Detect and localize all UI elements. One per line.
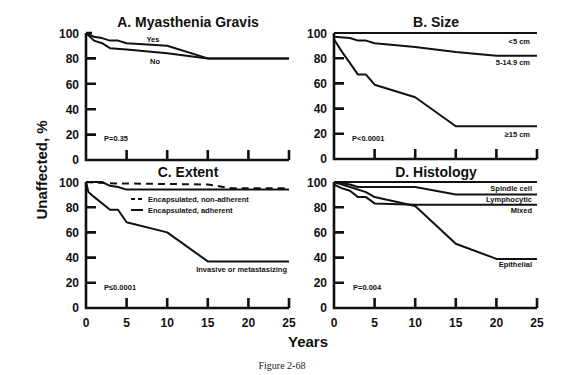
p-value-d: P=0.004 [353, 283, 382, 292]
panel-c-yticks [86, 207, 96, 283]
ytick-0: 0 [320, 301, 327, 315]
curve-ge15cm [334, 39, 537, 126]
ytick-40: 40 [314, 251, 328, 265]
legend-encapsulated-adherent: Encapsulated, adherent [148, 206, 233, 215]
p-value-a: P=0.35 [104, 134, 128, 143]
legend-encapsulated-non-adherent: Encapsulated, non-adherent [148, 195, 249, 204]
ytick-60: 60 [66, 78, 80, 92]
ytick-80: 80 [66, 52, 80, 66]
ytick-20: 20 [314, 276, 328, 290]
panel-c-title: C. Extent [158, 164, 219, 180]
panel-d: D. Histology 100 80 60 40 20 0 Spindle c… [307, 164, 544, 330]
ytick-0: 0 [72, 301, 79, 315]
xtick-25: 25 [282, 316, 296, 330]
label-spindle-cell: Spindle cell [490, 184, 532, 193]
panel-d-yticks [334, 207, 344, 283]
figure-canvas: A. Myasthenia Gravis 100 80 60 40 20 0 Y… [0, 0, 571, 375]
xtick-0: 0 [83, 316, 90, 330]
label-5-14.9cm: 5-14.9 cm [496, 58, 531, 67]
ytick-20: 20 [314, 127, 328, 141]
xtick-20: 20 [242, 316, 256, 330]
label-no: No [150, 57, 160, 66]
y-axis-label: Unaffected, % [33, 120, 50, 219]
ytick-80: 80 [314, 201, 328, 215]
label-ge15cm: ≥15 cm [505, 130, 531, 139]
p-value-b: P<0.0001 [352, 134, 384, 143]
panel-d-xticks [375, 298, 537, 308]
xtick-5: 5 [371, 316, 378, 330]
panel-a-xticks [127, 150, 289, 160]
panel-b-yticks [334, 58, 344, 134]
p-value-c: P≤0.0001 [104, 283, 136, 292]
label-mixed: Mixed [511, 206, 533, 215]
curve-5-14.9cm [334, 37, 537, 56]
curve-epithelial [334, 182, 537, 259]
panel-a: A. Myasthenia Gravis 100 80 60 40 20 0 Y… [59, 14, 289, 167]
ytick-20: 20 [66, 128, 80, 142]
label-lymphocytic: Lymphocytic [486, 195, 532, 204]
ytick-100: 100 [59, 27, 79, 41]
panel-a-title: A. Myasthenia Gravis [117, 14, 259, 30]
panel-b-xticks [375, 149, 537, 159]
label-invasive-or-metastasizing: Invasive or metastasizing [196, 265, 287, 274]
panel-a-yticks [86, 33, 96, 135]
label-epithelial: Epithelial [499, 260, 532, 269]
panel-c-xticks [127, 298, 289, 308]
ytick-100: 100 [307, 176, 327, 190]
curve-invasive-or-metastasizing [86, 182, 289, 261]
ytick-60: 60 [66, 226, 80, 240]
curve-no [86, 33, 289, 58]
label-yes: Yes [147, 35, 160, 44]
ytick-40: 40 [314, 102, 328, 116]
ytick-60: 60 [314, 226, 328, 240]
xtick-0: 0 [331, 316, 338, 330]
ytick-100: 100 [59, 176, 79, 190]
ytick-20: 20 [66, 276, 80, 290]
panel-b-title: B. Size [413, 14, 459, 30]
label-lt5cm: <5 cm [509, 37, 531, 46]
xtick-5: 5 [123, 316, 130, 330]
ytick-80: 80 [66, 201, 80, 215]
xtick-10: 10 [161, 316, 175, 330]
xtick-15: 15 [201, 316, 215, 330]
xtick-15: 15 [449, 316, 463, 330]
ytick-60: 60 [314, 77, 328, 91]
xtick-25: 25 [530, 316, 544, 330]
panel-d-title: D. Histology [395, 164, 477, 180]
ytick-80: 80 [314, 52, 328, 66]
x-axis-label: Years [288, 333, 328, 350]
ytick-0: 0 [320, 152, 327, 166]
panel-c: C. Extent 100 80 60 40 20 0 Encapsulated… [59, 164, 296, 330]
xtick-10: 10 [409, 316, 423, 330]
ytick-40: 40 [66, 103, 80, 117]
ytick-100: 100 [307, 27, 327, 41]
ytick-0: 0 [72, 153, 79, 167]
ytick-40: 40 [66, 251, 80, 265]
xtick-20: 20 [490, 316, 504, 330]
panel-b: B. Size 100 80 60 40 20 0 <5 cm 5-14.9 c… [307, 14, 537, 166]
figure-caption: Figure 2-68 [259, 360, 306, 371]
curve-yes [86, 33, 289, 58]
